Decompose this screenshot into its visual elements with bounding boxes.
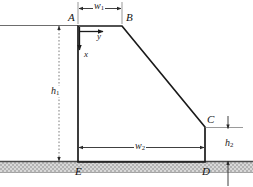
dimension-label-h2-sub: 2	[230, 141, 233, 148]
dimension-label-w1-sub: 1	[101, 4, 104, 11]
dimension-h2	[205, 116, 243, 186]
vertex-label-A: A	[68, 12, 75, 23]
dimension-label-h1: h1	[50, 86, 60, 97]
figure-canvas	[0, 0, 253, 187]
dimension-label-h2: h2	[224, 138, 234, 149]
dimension-label-h1-sub: 1	[56, 89, 59, 96]
dimension-label-w1: w1	[93, 1, 105, 12]
vertex-label-B: B	[126, 12, 133, 23]
vertex-label-C: C	[207, 114, 214, 125]
dimension-label-w2-base: w	[135, 140, 142, 151]
axis-label-x: x	[84, 50, 88, 59]
vertex-label-D: D	[202, 166, 210, 177]
dimension-label-w1-base: w	[94, 0, 101, 11]
dam-cross-section-figure: A B C D E w1 h1 w2 h2 y x	[0, 0, 253, 187]
dimension-label-w2: w2	[134, 141, 146, 152]
axis-label-y: y	[97, 32, 101, 41]
ground-band	[0, 162, 253, 173]
dimension-label-w2-sub: 2	[142, 144, 145, 151]
vertex-label-E: E	[75, 166, 82, 177]
